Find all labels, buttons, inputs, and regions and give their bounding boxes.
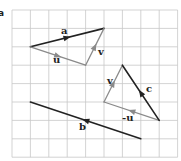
vector-label-v2: v [106,75,114,86]
arrowhead-icon [139,90,145,98]
vector-label-c: c [146,83,152,94]
vector-label-a: a [61,25,68,36]
vector-label-neg-u: -u [122,112,133,123]
arrowhead-icon [91,44,97,52]
vector-grid-diagram: auvv-ucb [0,0,181,161]
grid-lines [12,10,178,157]
vector-labels: auvv-ucb [53,25,152,132]
vector-label-v: v [97,46,105,57]
vector-label-b: b [79,121,86,132]
vector-label-u: u [53,54,60,65]
